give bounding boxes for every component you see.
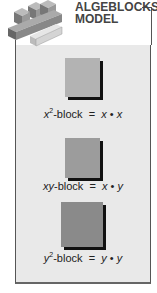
algeblocks-icon — [0, 0, 72, 50]
frame-line — [15, 40, 16, 48]
x2-block-label: x2-block = x • x — [15, 107, 151, 120]
xy-block-label: xy-block = x • y — [15, 180, 151, 192]
xy-block — [65, 138, 100, 178]
title-line-2: MODEL — [75, 13, 157, 25]
x2-block — [65, 58, 100, 97]
y2-block-label: y2-block = y • y — [15, 251, 151, 264]
y2-block — [61, 202, 103, 247]
page-title: ALGEBLOCKS MODEL — [75, 1, 157, 25]
